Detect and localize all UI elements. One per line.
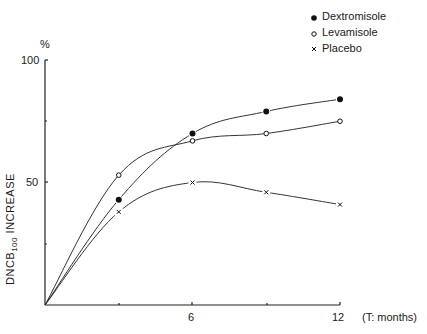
x-mark-icon	[308, 42, 320, 56]
x-marker	[189, 179, 197, 187]
y-unit-label: %	[40, 38, 50, 50]
filled-circle-marker	[190, 131, 196, 137]
filled-circle-marker	[116, 197, 122, 203]
filled-circle-marker	[337, 96, 343, 102]
open-circle-marker	[264, 131, 269, 136]
line-chart	[0, 0, 427, 334]
series-markers	[115, 96, 344, 216]
open-circle-marker	[338, 119, 343, 124]
x-marker	[115, 208, 123, 216]
series-line-placebo	[45, 182, 340, 305]
x-tick-12: 12	[332, 311, 344, 323]
open-circle-marker	[190, 139, 195, 144]
x-marker	[262, 188, 270, 196]
open-circle-marker	[116, 173, 121, 178]
x-axis-title: (T: months)	[362, 311, 417, 323]
y-tick-100: 100	[21, 54, 39, 66]
y-axis-title: DNCB100 INCREASE	[4, 173, 19, 285]
x-marker	[336, 201, 344, 209]
x-tick-6: 6	[188, 311, 194, 323]
filled-circle-icon	[308, 10, 320, 24]
y-tick-50: 50	[26, 176, 38, 188]
open-circle-icon	[308, 26, 320, 40]
filled-circle-marker	[263, 108, 269, 114]
series-line-levamisole	[45, 121, 340, 305]
